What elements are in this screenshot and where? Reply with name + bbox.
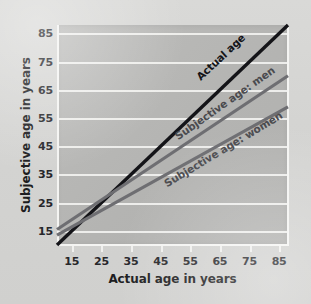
x-tick-mark bbox=[220, 246, 222, 252]
x-tick-mark bbox=[250, 246, 252, 252]
x-tick-label: 65 bbox=[205, 255, 235, 268]
x-tick-mark bbox=[72, 246, 74, 252]
x-tick-label: 35 bbox=[116, 255, 146, 268]
series-line-subjective-age-men bbox=[57, 76, 288, 230]
y-tick-label: 65 bbox=[1, 83, 53, 96]
x-tick-mark bbox=[161, 246, 163, 252]
x-axis-title: Actual age in years bbox=[57, 272, 288, 286]
x-tick-mark bbox=[101, 246, 103, 252]
x-tick-label: 45 bbox=[146, 255, 176, 268]
y-tick-label: 25 bbox=[1, 196, 53, 209]
x-tick-mark bbox=[190, 246, 192, 252]
y-tick-label: 75 bbox=[1, 55, 53, 68]
y-tick-label: 45 bbox=[1, 140, 53, 153]
x-tick-label: 75 bbox=[235, 255, 265, 268]
x-tick-mark bbox=[131, 246, 133, 252]
x-tick-label: 85 bbox=[264, 255, 294, 268]
x-tick-label: 15 bbox=[57, 255, 87, 268]
x-tick-label: 55 bbox=[175, 255, 205, 268]
y-tick-label: 15 bbox=[1, 224, 53, 237]
y-tick-label: 35 bbox=[1, 168, 53, 181]
y-tick-label: 85 bbox=[1, 27, 53, 40]
x-tick-mark bbox=[279, 246, 281, 252]
chart-figure: Actual age Subjective age: men Subjectiv… bbox=[0, 0, 311, 304]
x-tick-label: 25 bbox=[86, 255, 116, 268]
y-tick-label: 55 bbox=[1, 112, 53, 125]
